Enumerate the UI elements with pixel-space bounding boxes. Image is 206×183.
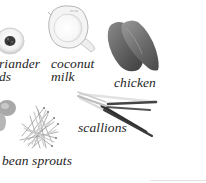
svg-text:ml oz: ml oz: [70, 9, 79, 13]
scallions-label: scallions: [78, 121, 127, 134]
coconut-milk-label: coconut milk: [51, 57, 94, 83]
shallot-icon: [0, 98, 18, 134]
bean-sprouts-icon: [18, 102, 62, 152]
page-edge-line: [150, 180, 206, 181]
bean-sprouts-label: bean sprouts: [2, 154, 72, 167]
coriander-seeds-label: riander ds: [0, 57, 40, 83]
ingredients-illustration: riander ds ml oz coconut milk: [0, 0, 206, 183]
chicken-breast-icon: [106, 18, 164, 76]
seed-dish-icon: [0, 26, 26, 56]
measuring-jug-icon: ml oz: [45, 3, 99, 55]
